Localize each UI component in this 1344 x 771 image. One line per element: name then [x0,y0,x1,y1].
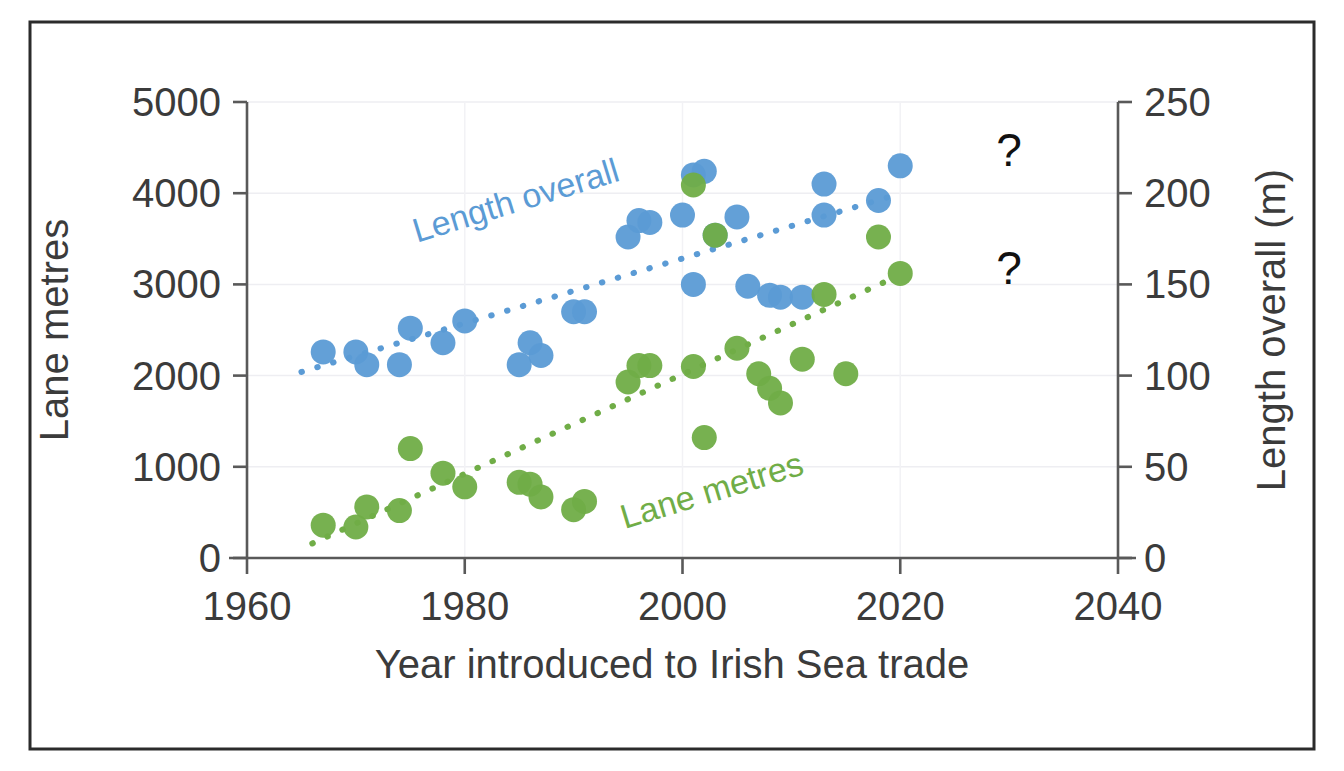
data-point [735,274,760,299]
data-point [703,223,728,248]
y2-axis-tick-label: 100 [1144,354,1211,398]
data-point [452,474,477,499]
data-point [724,204,749,229]
data-point [866,188,891,213]
y-axis-tick-label: 4000 [132,171,221,215]
y-axis-tick-label: 0 [199,536,221,580]
x-axis-title: Year introduced to Irish Sea trade [375,642,969,686]
data-point [572,299,597,324]
question-mark-upper: ? [996,124,1022,176]
data-point [768,390,793,415]
data-point [311,339,336,364]
x-axis-tick-label: 2000 [638,584,727,628]
y2-axis-tick-label: 0 [1144,536,1166,580]
y-axis-tick-label: 2000 [132,354,221,398]
data-point [528,484,553,509]
x-axis-tick-label: 2020 [856,584,945,628]
y2-axis-title: Length overall (m) [1249,169,1293,491]
data-point [398,316,423,341]
question-mark-lower: ? [996,242,1022,294]
data-point [681,354,706,379]
y-axis-tick-label: 3000 [132,262,221,306]
data-point [812,172,837,197]
y-axis-title: Lane metres [32,219,76,441]
data-point [398,436,423,461]
y2-axis-tick-label: 200 [1144,171,1211,215]
x-axis-tick-label: 1980 [420,584,509,628]
data-point [430,330,455,355]
y2-axis-tick-label: 250 [1144,80,1211,124]
data-point [724,336,749,361]
data-point [768,285,793,310]
scatter-chart: 0100020003000400050000501001502002501960… [0,0,1344,771]
data-point [812,203,837,228]
y-axis-tick-label: 1000 [132,445,221,489]
x-axis-tick-label: 1960 [203,584,292,628]
y-axis-tick-label: 5000 [132,80,221,124]
data-point [507,352,532,377]
data-point [812,282,837,307]
data-point [637,210,662,235]
x-axis-tick-label: 2040 [1074,584,1163,628]
data-point [637,353,662,378]
y2-axis-tick-label: 150 [1144,262,1211,306]
data-point [866,224,891,249]
data-point [692,425,717,450]
data-point [681,172,706,197]
data-point [833,361,858,386]
figure-frame: 0100020003000400050000501001502002501960… [0,0,1344,771]
data-point [354,494,379,519]
data-point [354,352,379,377]
data-point [681,272,706,297]
data-point [670,203,695,228]
data-point [790,347,815,372]
data-point [888,261,913,286]
figure-border [30,22,1314,749]
data-point [430,461,455,486]
data-point [790,285,815,310]
data-point [452,308,477,333]
data-point [311,513,336,538]
y2-axis-tick-label: 50 [1144,445,1189,489]
data-point [387,352,412,377]
data-point [387,498,412,523]
data-point [572,489,597,514]
data-point [528,343,553,368]
data-point [888,153,913,178]
